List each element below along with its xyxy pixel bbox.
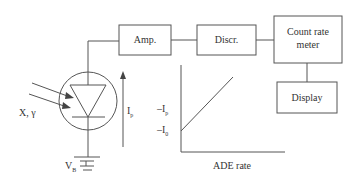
count-rate-meter-label-2: meter [274,39,342,51]
y-tick-i0: –I0 [157,124,168,137]
graph-line [181,77,233,131]
count-rate-meter-label-1: Count rate [274,26,342,38]
amp-label: Amp. [119,34,171,46]
radiation-arrow-2 [29,94,67,107]
display-label: Display [277,92,337,104]
radiation-label: X, γ [19,107,36,118]
discr-label: Discr. [197,34,256,46]
y-tick-ip: –Ip [157,103,168,116]
diode-icon [70,85,106,117]
wire-detector-amp [88,41,119,85]
x-axis-label: ADE rate [213,160,251,171]
bias-label: VB [65,160,76,173]
graph-axes [181,65,285,152]
current-label: Ip [127,105,133,118]
